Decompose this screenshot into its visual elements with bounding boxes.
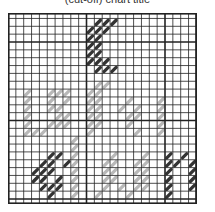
light-stitch (135, 107, 139, 111)
light-stitch (73, 146, 77, 150)
light-stitch (26, 114, 30, 118)
light-stitch (49, 91, 53, 95)
light-stitch (143, 185, 147, 189)
dark-stitch (57, 177, 61, 181)
dark-stitch (167, 169, 171, 173)
light-stitch (135, 114, 139, 118)
dark-stitch (88, 52, 92, 56)
light-stitch (96, 114, 100, 118)
dark-stitch (49, 162, 53, 166)
dark-stitch (88, 44, 92, 48)
light-stitch (88, 130, 92, 134)
light-stitch (65, 122, 69, 126)
light-stitch (65, 91, 69, 95)
dark-stitch (183, 154, 187, 158)
dark-stitch (190, 177, 194, 181)
dark-stitch (104, 60, 108, 64)
light-stitch (26, 91, 30, 95)
light-stitch (112, 169, 116, 173)
light-stitch (73, 138, 77, 142)
dark-stitch (104, 20, 108, 24)
dark-stitch (190, 162, 194, 166)
light-stitch (96, 99, 100, 103)
light-stitch (135, 130, 139, 134)
dark-stitch (167, 177, 171, 181)
light-stitch (104, 83, 108, 87)
dark-stitch (65, 162, 69, 166)
dark-stitch (49, 154, 53, 158)
light-stitch (104, 177, 108, 181)
light-stitch (96, 91, 100, 95)
light-stitch (49, 107, 53, 111)
dark-stitch (57, 185, 61, 189)
light-stitch (88, 91, 92, 95)
light-stitch (135, 169, 139, 173)
dark-stitch (96, 52, 100, 56)
light-stitch (104, 169, 108, 173)
light-stitch (143, 177, 147, 181)
light-stitch (88, 107, 92, 111)
light-stitch (73, 193, 77, 197)
light-stitch (57, 122, 61, 126)
light-stitch (96, 83, 100, 87)
dark-stitch (112, 20, 116, 24)
light-stitch (49, 122, 53, 126)
light-stitch (159, 130, 163, 134)
dark-stitch (88, 28, 92, 32)
light-stitch (159, 114, 163, 118)
dark-stitch (175, 162, 179, 166)
light-stitch (73, 162, 77, 166)
light-stitch (57, 91, 61, 95)
light-stitch (49, 99, 53, 103)
light-stitch (73, 177, 77, 181)
dark-stitch (96, 60, 100, 64)
light-stitch (96, 193, 100, 197)
light-stitch (88, 99, 92, 103)
dark-stitch (96, 67, 100, 71)
light-stitch (26, 99, 30, 103)
light-stitch (96, 107, 100, 111)
light-stitch (26, 107, 30, 111)
light-stitch (128, 122, 132, 126)
dark-stitch (49, 169, 53, 173)
dark-stitch (96, 44, 100, 48)
dark-stitch (167, 154, 171, 158)
dark-stitch (49, 185, 53, 189)
light-stitch (120, 107, 124, 111)
dark-stitch (112, 67, 116, 71)
light-stitch (159, 122, 163, 126)
light-stitch (112, 154, 116, 158)
dark-stitch (41, 169, 45, 173)
dark-stitch (167, 185, 171, 189)
light-stitch (104, 162, 108, 166)
dark-stitch (41, 162, 45, 166)
cross-stitch-pattern-grid (8, 13, 197, 204)
light-stitch (159, 99, 163, 103)
light-stitch (112, 177, 116, 181)
dark-stitch (96, 20, 100, 24)
dark-stitch (190, 185, 194, 189)
light-stitch (33, 130, 37, 134)
dark-stitch (190, 169, 194, 173)
dark-stitch (88, 60, 92, 64)
dark-stitch (33, 169, 37, 173)
dark-stitch (96, 36, 100, 40)
dark-stitch (33, 177, 37, 181)
light-stitch (128, 193, 132, 197)
light-stitch (88, 114, 92, 118)
light-stitch (120, 185, 124, 189)
pattern-grid-canvas (8, 13, 197, 204)
dark-stitch (41, 185, 45, 189)
light-stitch (128, 99, 132, 103)
dark-stitch (88, 36, 92, 40)
light-stitch (26, 130, 30, 134)
light-stitch (88, 122, 92, 126)
light-stitch (96, 122, 100, 126)
dark-stitch (167, 193, 171, 197)
light-stitch (135, 185, 139, 189)
light-stitch (159, 107, 163, 111)
light-stitch (57, 114, 61, 118)
dark-stitch (57, 154, 61, 158)
light-stitch (112, 162, 116, 166)
dark-stitch (49, 193, 53, 197)
